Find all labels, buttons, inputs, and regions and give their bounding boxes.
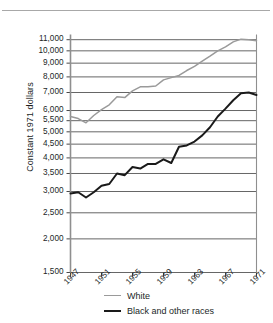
legend-item-black-and-other-races: Black and other races — [0, 303, 273, 318]
legend-item-white: White — [0, 288, 273, 303]
chart-figure: Constant 1971 dollars 11,00010,0009,0008… — [0, 0, 273, 323]
gridlines — [71, 40, 257, 273]
series-line — [71, 93, 257, 198]
legend-label-white: White — [127, 291, 150, 301]
legend-swatch-white-icon — [104, 295, 121, 296]
legend-label-black-and-other-races: Black and other races — [127, 306, 214, 316]
axis-lines — [71, 35, 257, 273]
legend-swatch-black-icon — [104, 310, 121, 312]
chart-legend: White Black and other races — [0, 288, 273, 318]
